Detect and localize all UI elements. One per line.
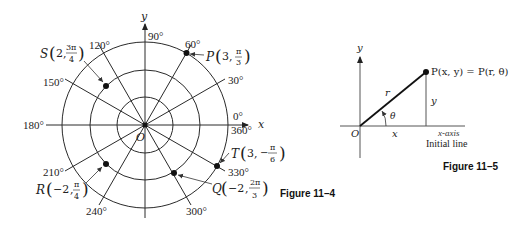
svg-text:3: 3 [236, 58, 241, 67]
figure-11-5-caption: Figure 11–5 [443, 161, 498, 172]
pointer-P [190, 54, 204, 55]
label-R: R ( −2 , π 4 ) [35, 179, 89, 201]
figure-11-4-caption: Figure 11–4 [280, 188, 335, 199]
point-P-xy [423, 69, 429, 75]
svg-text:3: 3 [222, 50, 229, 63]
theta-label: θ [390, 111, 396, 121]
svg-text:,: , [229, 50, 233, 63]
angle-label-300: 300° [186, 205, 207, 217]
angle-label-360: 360° [231, 124, 252, 136]
svg-text:3π: 3π [66, 43, 76, 52]
point-P [184, 50, 190, 56]
label-Q: Q ( −2 , 2π 3 ) [212, 178, 269, 200]
angle-label-180: 180° [23, 119, 44, 131]
svg-text:π: π [270, 143, 275, 152]
svg-text:−2: −2 [53, 183, 69, 196]
fig5-origin-label: O [351, 128, 359, 139]
svg-text:3: 3 [252, 191, 257, 200]
svg-text:6: 6 [270, 155, 275, 164]
svg-text:(: ( [215, 46, 222, 66]
svg-text:,: , [70, 183, 74, 196]
svg-text:4: 4 [69, 55, 74, 64]
angle-label-90: 90° [148, 30, 163, 42]
point-S [103, 83, 109, 89]
svg-text:(: ( [221, 178, 228, 198]
angle-label-0: 0° [233, 110, 243, 122]
label-P: P ( 3 , π 3 ) [205, 46, 251, 67]
r-label: r [385, 87, 391, 98]
y-axis-label: y [140, 10, 148, 23]
svg-text:): ) [262, 178, 269, 198]
xaxis-label: x-axis [437, 128, 460, 138]
angle-label-30: 30° [228, 74, 243, 86]
svg-text:T: T [231, 147, 240, 161]
svg-text:π: π [236, 47, 241, 56]
svg-text:,: , [245, 182, 249, 195]
figures-canvas: y x O 90° 60° 120° 30° 150° 180° 0° 360°… [0, 0, 530, 231]
angle-label-150: 150° [43, 76, 64, 88]
label-T: T ( 3 , − π 6 ) [231, 143, 286, 164]
figure-11-5: y O r θ x y P(x, y) = P(r, θ) x-axis Ini… [340, 42, 509, 172]
svg-text:P: P [205, 50, 215, 64]
point-P-xy-label: P(x, y) = P(r, θ) [431, 66, 509, 77]
angle-label-330: 330° [228, 166, 249, 178]
svg-text:(: ( [49, 43, 56, 63]
y-length-label: y [430, 95, 437, 106]
svg-text:): ) [78, 43, 85, 63]
svg-text:−: − [260, 147, 268, 158]
point-R [103, 161, 109, 167]
origin-label: O [136, 131, 145, 144]
svg-text:(: ( [240, 143, 247, 163]
svg-text:2π: 2π [250, 178, 260, 187]
fig5-y-axis-label: y [356, 42, 363, 53]
svg-text:S: S [40, 47, 48, 61]
initial-line-label: Initial line [426, 138, 468, 149]
svg-text:): ) [279, 143, 286, 163]
svg-text:): ) [244, 46, 251, 66]
angle-label-210: 210° [43, 166, 64, 178]
svg-text:2: 2 [56, 47, 63, 60]
x-length-label: x [392, 128, 398, 139]
svg-text:π: π [74, 180, 79, 189]
angle-label-120: 120° [89, 39, 110, 51]
label-S: S ( 2 , 3π 4 ) [40, 43, 85, 64]
svg-text:,: , [254, 147, 258, 160]
point-T [214, 163, 220, 169]
angle-label-60: 60° [185, 38, 200, 50]
x-axis-label: x [258, 118, 265, 131]
svg-text:3: 3 [247, 147, 254, 160]
svg-text:(: ( [46, 179, 53, 199]
pointer-S [84, 61, 103, 82]
pointer-Q [178, 175, 212, 184]
theta-arc-icon [382, 111, 386, 126]
origin-dot [143, 123, 148, 128]
svg-text:−2: −2 [228, 182, 244, 195]
point-Q [171, 170, 177, 176]
svg-text:R: R [35, 183, 45, 197]
svg-text:): ) [82, 179, 89, 199]
angle-label-240: 240° [86, 205, 107, 217]
svg-text:4: 4 [74, 192, 79, 201]
